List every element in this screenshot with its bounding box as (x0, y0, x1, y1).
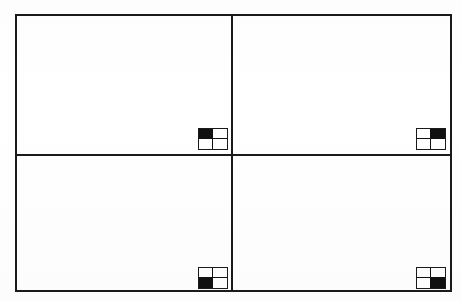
indicator-cell-bottom-left (417, 278, 431, 288)
quadrant-map-icon-bottom-left (198, 267, 228, 289)
vertical-divider-line (231, 14, 233, 292)
quadrant-map-icon-bottom-right (416, 267, 446, 289)
diagram-canvas (0, 0, 461, 301)
indicator-cell-bottom-left (199, 278, 213, 288)
quadrant-map-icon-top-right (416, 128, 446, 150)
indicator-cell-top-left (417, 268, 431, 278)
indicator-cell-top-right (213, 129, 227, 139)
indicator-cell-bottom-right (213, 278, 227, 288)
indicator-cell-top-left (417, 129, 431, 139)
quadrant-map-icon-top-left (198, 128, 228, 150)
indicator-cell-top-right (213, 268, 227, 278)
horizontal-divider-line (15, 154, 452, 156)
indicator-cell-top-right (431, 129, 445, 139)
indicator-cell-bottom-left (199, 139, 213, 149)
indicator-cell-bottom-left (417, 139, 431, 149)
indicator-cell-top-left (199, 268, 213, 278)
indicator-cell-bottom-right (213, 139, 227, 149)
indicator-cell-bottom-right (431, 278, 445, 288)
indicator-cell-bottom-right (431, 139, 445, 149)
indicator-cell-top-right (431, 268, 445, 278)
indicator-cell-top-left (199, 129, 213, 139)
